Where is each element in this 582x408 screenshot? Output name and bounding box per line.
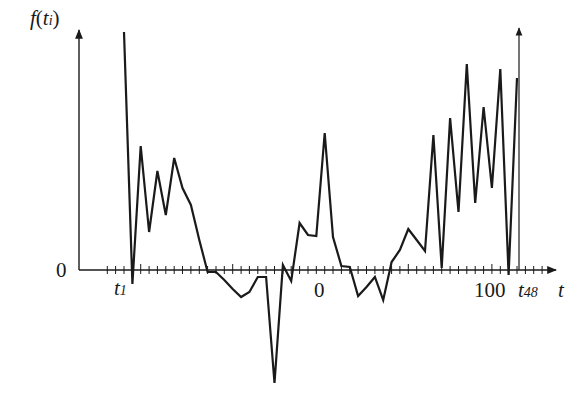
chart-canvas — [0, 0, 582, 408]
x-axis-label: t — [558, 280, 564, 301]
y-zero-label: 0 — [56, 260, 67, 281]
t1-label: t1 — [114, 278, 127, 299]
y-label-close: ) — [53, 6, 60, 30]
y-axis-label: f(ti) — [30, 8, 60, 29]
data-line — [124, 32, 517, 383]
t48-sub: 48 — [524, 285, 538, 300]
hundred-label: 100 — [474, 280, 506, 301]
t48-label: t48 — [518, 280, 538, 301]
center-zero-label: 0 — [314, 280, 325, 301]
x-axis-ticks — [107, 264, 542, 274]
y-label-open: ( — [36, 6, 43, 30]
t1-sub: 1 — [120, 283, 127, 298]
